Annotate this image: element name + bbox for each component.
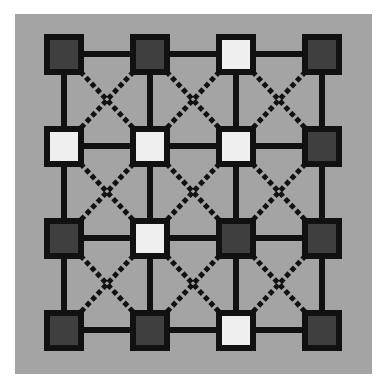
node-dark-r4c1[interactable] [44,310,84,351]
node-dark-r4c2[interactable] [130,310,170,351]
node-light-r4c3[interactable] [216,310,256,351]
node-dark-r1c2[interactable] [130,34,170,75]
node-dark-r2c4[interactable] [302,126,342,167]
node-light-r2c3[interactable] [216,126,256,167]
node-light-r1c3[interactable] [216,34,256,75]
node-light-r2c1[interactable] [44,126,84,167]
node-dark-r3c1[interactable] [44,218,84,259]
node-dark-r1c4[interactable] [302,34,342,75]
node-dark-r1c1[interactable] [44,34,84,75]
node-dark-r4c4[interactable] [302,310,342,351]
node-dark-r3c4[interactable] [302,218,342,259]
node-light-r3c2[interactable] [130,218,170,259]
node-light-r2c2[interactable] [130,126,170,167]
node-dark-r3c3[interactable] [216,218,256,259]
